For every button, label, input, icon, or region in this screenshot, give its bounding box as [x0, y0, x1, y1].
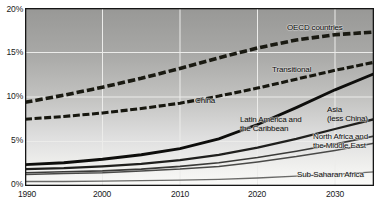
series-label-asia-less-china: Asia (less China) — [327, 106, 368, 123]
x-tick-2030: 2030 — [326, 190, 344, 199]
series-label-north-africa-middle-east: North Africa and the Middle East — [313, 133, 368, 150]
x-tick-1990: 1990 — [18, 190, 36, 199]
y-tick-10: 10% — [7, 92, 23, 101]
y-tick-20: 20% — [7, 5, 23, 14]
y-tick-15: 15% — [7, 48, 23, 57]
series-label-sub-saharan-africa: Sub-Saharan Africa — [297, 171, 364, 180]
series-label-latin-america-caribbean: Latin America and the Caribbean — [240, 116, 302, 133]
series-label-china: China — [195, 97, 215, 106]
regional-share-line-chart: 20% 15% 10% 5% 0% — [0, 0, 374, 206]
x-axis: 1990 2000 2010 2020 2030 — [0, 188, 374, 206]
x-tick-2000: 2000 — [93, 190, 111, 199]
y-axis: 20% 15% 10% 5% 0% — [0, 0, 25, 186]
x-tick-2010: 2010 — [171, 190, 189, 199]
y-tick-5: 5% — [11, 136, 23, 145]
series-label-transitional: Transitional — [272, 66, 311, 75]
plot-area: OECD countries Transitional China Latin … — [25, 8, 374, 186]
x-tick-2020: 2020 — [248, 190, 266, 199]
series-label-oecd-countries: OECD countries — [287, 24, 343, 33]
